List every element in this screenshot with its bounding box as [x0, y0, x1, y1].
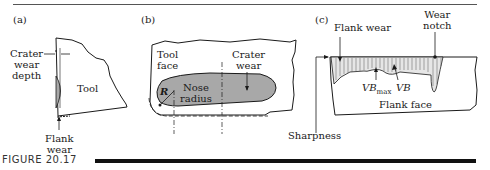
panel-c-label: (c)	[315, 14, 328, 25]
panel-b-label: (b)	[141, 14, 155, 25]
radius-point	[159, 104, 162, 107]
figure-caption: FIGURE 20.17	[2, 154, 77, 165]
tool-label: Tool	[77, 83, 98, 94]
crater-wear-label: Crater wear	[232, 49, 265, 71]
tool-outline	[56, 38, 127, 116]
crater-wear-region	[157, 73, 276, 106]
flank-wear-label: Flank wear	[45, 133, 74, 155]
wear-notch-label: Wear notch	[423, 9, 452, 31]
vb-label: VB	[396, 82, 411, 93]
wear-notch-dot	[433, 55, 437, 59]
caption-bar	[95, 159, 476, 163]
radius-symbol-label: R	[160, 86, 168, 97]
sharpness-arrowhead	[324, 55, 329, 59]
nose-radius-label: Nose radius	[180, 82, 212, 104]
flank-wear-label-c: Flank wear	[334, 22, 391, 33]
sharpness-label: Sharpness	[288, 130, 341, 141]
vbmax-label: VBmax	[362, 82, 391, 98]
flank-face-label: Flank face	[379, 99, 432, 110]
panel-a-label: (a)	[13, 14, 27, 25]
tool-face-label: Tool face	[157, 49, 178, 71]
crater-wear-depth-label: Crater wear depth	[10, 48, 43, 81]
